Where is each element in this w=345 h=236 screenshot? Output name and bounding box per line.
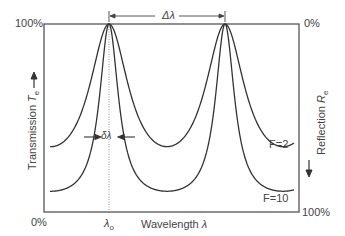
curve-f2 bbox=[50, 24, 294, 147]
curve-label-f2: F=2 bbox=[269, 139, 288, 150]
right-axis-title: Reflection Re bbox=[316, 91, 330, 155]
left-axis-top-label: 100% bbox=[15, 18, 43, 29]
arrow-up-icon bbox=[31, 72, 37, 88]
arrow-down-icon bbox=[306, 160, 312, 177]
plot-svg bbox=[0, 0, 345, 236]
x-axis-title: Wavelength λ bbox=[141, 219, 207, 230]
fwhm-label: δλ bbox=[101, 131, 111, 141]
left-axis-bottom-label: 0% bbox=[31, 217, 47, 228]
left-axis-title: Transmission Te bbox=[27, 91, 41, 170]
curve-f10 bbox=[50, 24, 294, 191]
right-axis-bottom-label: 100% bbox=[302, 207, 330, 218]
fsr-label: Δλ bbox=[160, 10, 177, 21]
center-wavelength-label: λo bbox=[104, 218, 114, 232]
right-axis-top-label: 0% bbox=[304, 18, 320, 29]
curve-label-f10: F=10 bbox=[263, 193, 288, 204]
